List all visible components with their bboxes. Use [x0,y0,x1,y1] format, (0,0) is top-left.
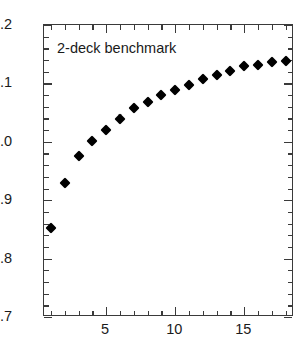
y-tick-minor [44,60,49,61]
y-tick-major [284,142,292,143]
y-tick-minor [44,282,49,283]
x-tick-label: 10 [166,322,182,337]
plot-area [43,24,293,316]
x-tick-minor [51,311,52,316]
y-tick-label: 1.0 [0,134,12,149]
data-point [239,61,250,72]
data-point [87,135,98,146]
x-tick-major [106,307,107,315]
y-tick-minor [44,305,49,306]
chart-annotation-label: 2-deck benchmark [57,41,176,56]
y-tick-minor [44,37,49,38]
y-tick-minor [44,235,49,236]
data-point [128,102,139,113]
data-point [59,177,70,188]
y-tick-major [284,259,292,260]
x-tick-minor [161,25,162,30]
x-tick-minor [217,311,218,316]
x-tick-minor [79,25,80,30]
y-tick-label: 0.8 [0,251,12,266]
x-tick-minor [65,311,66,316]
x-tick-minor [272,25,273,30]
y-tick-minor [44,72,49,73]
data-point [114,113,125,124]
x-tick-minor [258,311,259,316]
y-tick-major [44,317,52,318]
x-tick-minor [92,25,93,30]
x-tick-minor [51,25,52,30]
y-tick-minor [44,118,49,119]
y-tick-minor [288,48,293,49]
y-tick-major [44,200,52,201]
data-point [156,89,167,100]
chart-figure: 0.70.80.91.01.11.2 51015 2-deck benchmar… [0,0,308,351]
data-point [266,57,277,68]
y-tick-minor [288,305,293,306]
y-tick-minor [288,247,293,248]
y-tick-minor [288,153,293,154]
y-tick-label: 1.1 [0,75,12,90]
y-tick-minor [288,37,293,38]
data-point [170,84,181,95]
y-tick-minor [44,247,49,248]
y-tick-major [44,83,52,84]
y-tick-minor [288,235,293,236]
y-tick-minor [44,107,49,108]
y-tick-minor [288,294,293,295]
x-tick-minor [203,311,204,316]
data-point [252,59,263,70]
y-tick-major [44,142,52,143]
data-point [142,96,153,107]
x-tick-minor [65,25,66,30]
y-tick-minor [288,72,293,73]
x-tick-minor [286,311,287,316]
x-tick-minor [230,25,231,30]
data-point [197,74,208,85]
y-tick-major [44,259,52,260]
x-tick-major [244,25,245,33]
x-tick-minor [189,25,190,30]
x-tick-minor [189,311,190,316]
x-tick-minor [148,25,149,30]
data-point [73,151,84,162]
y-tick-minor [44,177,49,178]
y-tick-minor [288,224,293,225]
y-tick-minor [288,130,293,131]
y-tick-minor [44,95,49,96]
y-tick-minor [288,189,293,190]
y-tick-major [284,200,292,201]
x-tick-minor [161,311,162,316]
data-point [225,65,236,76]
y-tick-major [284,317,292,318]
x-tick-minor [92,311,93,316]
y-tick-minor [288,107,293,108]
y-tick-minor [44,165,49,166]
x-tick-minor [148,311,149,316]
x-tick-minor [120,25,121,30]
data-point [100,124,111,135]
x-tick-label: 15 [235,322,251,337]
y-tick-minor [288,177,293,178]
x-tick-major [175,25,176,33]
x-tick-minor [217,25,218,30]
data-point [183,79,194,90]
x-tick-minor [120,311,121,316]
y-tick-minor [288,165,293,166]
x-tick-minor [203,25,204,30]
x-tick-major [244,307,245,315]
y-tick-label: 0.9 [0,192,12,207]
x-tick-major [106,25,107,33]
y-tick-minor [288,212,293,213]
x-tick-minor [134,311,135,316]
y-tick-minor [44,294,49,295]
x-tick-minor [79,311,80,316]
y-tick-minor [44,270,49,271]
y-tick-minor [288,282,293,283]
y-tick-label: 0.7 [0,309,12,324]
x-tick-minor [230,311,231,316]
y-tick-minor [288,118,293,119]
data-point [280,55,291,66]
x-tick-minor [258,25,259,30]
y-tick-major [284,83,292,84]
x-tick-minor [286,25,287,30]
